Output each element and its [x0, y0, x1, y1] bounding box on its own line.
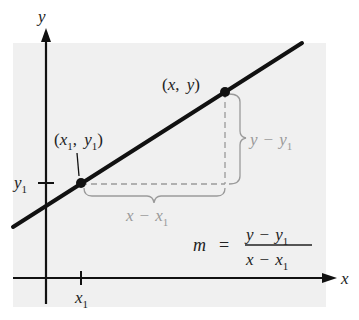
- point-x1-y1: [76, 178, 86, 188]
- y-axis-label: y: [36, 7, 46, 26]
- point-x-y: [220, 87, 230, 97]
- slope-diagram: y x x1 y1 y−y1 x−x1 (x1, y1) (x, y) m = …: [0, 0, 359, 320]
- svg-text:m: m: [193, 235, 206, 255]
- x-axis-label: x: [340, 269, 349, 288]
- formula-numerator: y−y1: [244, 225, 288, 247]
- svg-text:=: =: [219, 235, 229, 255]
- rise-label: y−y1: [248, 130, 292, 152]
- point-x-y-label: (x, y): [162, 75, 200, 94]
- y-axis-arrow-icon: [41, 28, 51, 42]
- run-label: x−x1: [125, 206, 168, 228]
- formula-denominator: x−x1: [245, 250, 288, 272]
- x-axis-arrow-icon: [322, 273, 337, 283]
